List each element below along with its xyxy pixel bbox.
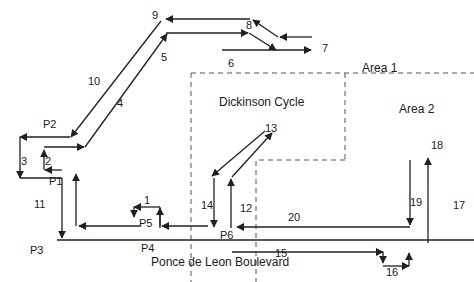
node-label-p4: P4 bbox=[141, 243, 154, 254]
link-label-16: 16 bbox=[386, 267, 398, 278]
area-label-area-1: Area 1 bbox=[362, 62, 397, 74]
node-label-p2: P2 bbox=[43, 119, 56, 130]
link-label-19: 19 bbox=[410, 197, 422, 208]
diagram-canvas bbox=[0, 0, 474, 282]
area-label-dickinson-cycle: Dickinson Cycle bbox=[219, 96, 304, 108]
link-10-path bbox=[71, 21, 161, 137]
link-label-18: 18 bbox=[431, 140, 443, 151]
link-label-9: 9 bbox=[152, 10, 158, 21]
node-label-p6: P6 bbox=[220, 230, 233, 241]
link-label-20: 20 bbox=[288, 212, 300, 223]
link-label-1: 1 bbox=[144, 195, 150, 206]
network-diagram: Ponce de Leon Boulevard Area 1 Area 2 Di… bbox=[0, 0, 474, 282]
link-label-2: 2 bbox=[45, 156, 51, 167]
link-label-3: 3 bbox=[21, 156, 27, 167]
network-links bbox=[20, 19, 474, 266]
link-label-15: 15 bbox=[275, 248, 287, 259]
link-6-path bbox=[249, 33, 276, 50]
link-label-13: 13 bbox=[265, 123, 277, 134]
link-label-11: 11 bbox=[34, 199, 45, 210]
link-label-14: 14 bbox=[201, 200, 213, 211]
link-4-path bbox=[85, 34, 167, 147]
link-label-10: 10 bbox=[88, 76, 100, 87]
link-label-4: 4 bbox=[117, 98, 123, 109]
link-label-6: 6 bbox=[228, 58, 234, 69]
link-13-up-path bbox=[232, 133, 272, 177]
link-label-12: 12 bbox=[240, 203, 252, 214]
link-label-17: 17 bbox=[453, 200, 465, 211]
link-8-path bbox=[253, 20, 278, 37]
link-label-5: 5 bbox=[161, 52, 167, 63]
street-label-ponce-de-leon-boulevard: Ponce de Leon Boulevard bbox=[151, 256, 289, 268]
node-label-p3: P3 bbox=[30, 245, 43, 256]
link-label-7: 7 bbox=[322, 43, 328, 54]
node-label-p5: P5 bbox=[139, 218, 152, 229]
link-label-8: 8 bbox=[246, 20, 252, 31]
node-label-p1: P1 bbox=[49, 176, 62, 187]
area-label-area-2: Area 2 bbox=[399, 103, 434, 115]
